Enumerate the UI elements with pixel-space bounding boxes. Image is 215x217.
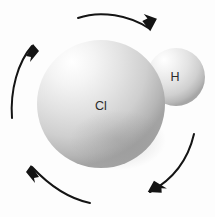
chlorine-shading-overlay	[70, 110, 166, 170]
chlorine-label: Cl	[95, 99, 107, 113]
hydrogen-label: H	[170, 70, 179, 84]
molecule-diagram: H Cl	[0, 0, 215, 217]
molecule-canvas: H Cl	[0, 0, 215, 217]
